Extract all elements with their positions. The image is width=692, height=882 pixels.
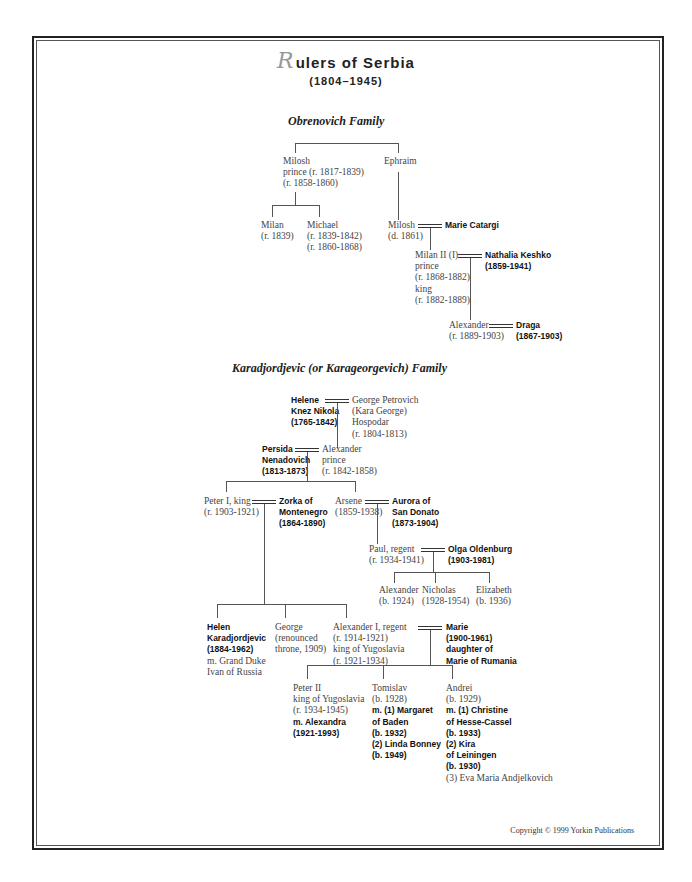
title-rest: ulers of Serbia [296, 54, 415, 71]
connector [383, 665, 384, 679]
connector [470, 258, 471, 320]
connector [394, 572, 490, 573]
connector [435, 572, 436, 583]
connector [489, 572, 490, 583]
node-george-petrovich: George Petrovich (Kara George) Hospodar … [352, 395, 419, 440]
node-aurora: Aurora of San Donato (1873-1904) [392, 496, 439, 530]
connector [295, 143, 296, 153]
connector [394, 572, 395, 583]
node-zorka: Zorka of Montenegro (1864-1890) [279, 496, 328, 530]
connector [217, 604, 218, 618]
node-marie: Marie (1900-1961) daughter of Marie of R… [446, 622, 517, 667]
connector [264, 504, 265, 604]
node-paul: Paul, regent (r. 1934-1941) [369, 544, 424, 566]
connector [398, 143, 399, 153]
connector [226, 481, 227, 492]
marriage-symbol [489, 324, 513, 328]
node-marie-catargi: Marie Catargi [445, 220, 499, 231]
connector [452, 665, 453, 679]
connector [307, 665, 453, 666]
connector [337, 403, 338, 448]
andrei-marriage-3: (3) Eva Maria Andjelkovich [446, 773, 553, 783]
connector [355, 481, 356, 492]
obrenovich-family-heading: Obrenovich Family [288, 114, 384, 129]
node-alexander-prince: Alexander prince (r. 1842-1858) [322, 444, 377, 478]
andrei-marriages: m. (1) Christine of Hesse-Cassel (b. 193… [446, 705, 512, 771]
connector [430, 630, 431, 665]
karadjordjevic-family-heading: Karadjordjevic (or Karageorgevich) Famil… [232, 361, 447, 376]
node-milan: Milan (r. 1839) [261, 220, 294, 242]
connector [430, 228, 431, 250]
connector [346, 604, 347, 618]
connector [295, 192, 296, 205]
connector [295, 143, 399, 144]
node-alexander-b1924: Alexander (b. 1924) [379, 585, 419, 607]
connector [307, 665, 308, 679]
node-milosh: Milosh prince (r. 1817-1839) (r. 1858-18… [283, 156, 364, 190]
peter-ii-marriage: m. Alexandra (1921-1993) [293, 717, 346, 738]
node-helen: Helen Karadjordjevic (1884-1962) m. Gran… [207, 622, 266, 678]
title-initial: R [277, 48, 295, 73]
connector [217, 604, 347, 605]
copyright-notice: Copyright © 1999 Yorkin Publications [480, 826, 664, 835]
connector [272, 205, 320, 206]
node-milan-ii: Milan II (I) prince (r. 1868-1882) king … [415, 250, 470, 306]
connector [226, 481, 356, 482]
node-nathalia-keshko: Nathalia Keshko (1859-1941) [485, 250, 551, 272]
node-tomislav: Tomislav (b. 1928) m. (1) Margaret of Ba… [372, 683, 441, 761]
connector [272, 205, 273, 217]
tomislav-marriages: m. (1) Margaret of Baden (b. 1932) (2) L… [372, 705, 441, 760]
connector [319, 205, 320, 217]
node-george: George (renounced throne, 1909) [275, 622, 326, 656]
page-title: Rulers of Serbia [0, 48, 692, 73]
connector [433, 552, 434, 572]
node-nicholas: Nicholas (1928-1954) [422, 585, 470, 607]
connector [377, 504, 378, 544]
node-draga: Draga (1867-1903) [516, 320, 562, 342]
andrei-title: Andrei (b. 1929) [446, 683, 481, 704]
node-michael: Michael (r. 1839-1842) (r. 1860-1868) [307, 220, 362, 254]
node-ephraim: Ephraim [384, 156, 417, 167]
node-peter-i: Peter I, king (r. 1903-1921) [204, 496, 259, 518]
node-olga: Olga Oldenburg (1903-1981) [448, 544, 512, 566]
helen-name: Helen Karadjordjevic (1884-1962) [207, 622, 266, 654]
connector [307, 452, 308, 481]
tomislav-title: Tomislav (b. 1928) [372, 683, 407, 704]
helen-marriage: m. Grand Duke Ivan of Russia [207, 656, 266, 677]
node-andrei: Andrei (b. 1929) m. (1) Christine of Hes… [446, 683, 553, 784]
peter-ii-title: Peter II king of Yugoslavia (r. 1934-194… [293, 683, 364, 715]
page-subtitle: (1804–1945) [0, 75, 692, 87]
node-elizabeth: Elizabeth (b. 1936) [476, 585, 512, 607]
connector [398, 172, 399, 220]
node-alexander-i: Alexander I, regent (r. 1914-1921) king … [333, 622, 407, 667]
connector [285, 604, 286, 618]
node-peter-ii: Peter II king of Yugoslavia (r. 1934-194… [293, 683, 364, 739]
